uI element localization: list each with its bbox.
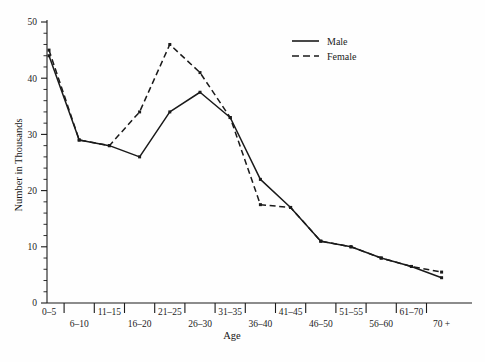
x-axis: 0–56–1011–1516–2021–2526–3031–3536–4041–… bbox=[42, 303, 472, 329]
x-tick-label: 31–35 bbox=[218, 307, 242, 317]
data-point-marker bbox=[259, 178, 262, 181]
legend-label-male: Male bbox=[327, 36, 348, 47]
x-axis-title: Age bbox=[223, 330, 241, 341]
data-point-marker bbox=[319, 240, 322, 243]
x-tick-label: 6–10 bbox=[70, 319, 89, 329]
line-chart-canvas: 01020304050 0–56–1011–1516–2021–2526–303… bbox=[0, 0, 485, 362]
chart-figure: 01020304050 0–56–1011–1516–2021–2526–303… bbox=[0, 0, 485, 362]
x-tick-label: 16–20 bbox=[128, 319, 152, 329]
legend-label-female: Female bbox=[327, 51, 357, 62]
x-tick-label: 70 + bbox=[433, 319, 450, 329]
data-point-marker bbox=[199, 91, 202, 94]
y-tick-label: 10 bbox=[28, 242, 38, 252]
x-tick-label: 0–5 bbox=[42, 307, 57, 317]
data-point-marker bbox=[168, 110, 171, 113]
y-tick-label: 30 bbox=[28, 130, 38, 140]
x-tick-label: 61–70 bbox=[400, 307, 424, 317]
x-tick-label: 36–40 bbox=[249, 319, 273, 329]
y-tick-label: 20 bbox=[28, 186, 38, 196]
series-line-male bbox=[49, 56, 442, 278]
series-line-female bbox=[49, 44, 442, 272]
data-point-marker bbox=[440, 271, 443, 274]
data-series-layer bbox=[48, 43, 444, 279]
x-axis-tick-labels: 0–56–1011–1516–2021–2526–3031–3536–4041–… bbox=[42, 307, 450, 329]
data-point-marker bbox=[350, 245, 353, 248]
data-point-marker bbox=[78, 139, 81, 142]
data-point-marker bbox=[199, 71, 202, 74]
x-tick-label: 56–60 bbox=[369, 319, 393, 329]
x-tick-label: 11–15 bbox=[98, 307, 122, 317]
data-point-marker bbox=[440, 276, 443, 279]
y-tick-label: 50 bbox=[28, 17, 38, 27]
y-axis-major-ticks bbox=[41, 22, 47, 303]
data-point-marker bbox=[380, 257, 383, 260]
x-tick-label: 46–50 bbox=[309, 319, 333, 329]
data-point-marker bbox=[138, 110, 141, 113]
data-point-marker bbox=[410, 265, 413, 268]
y-tick-label: 40 bbox=[28, 74, 38, 84]
data-point-marker bbox=[259, 203, 262, 206]
data-point-marker bbox=[289, 206, 292, 209]
data-point-marker bbox=[108, 144, 111, 147]
data-point-marker bbox=[229, 116, 232, 119]
x-tick-label: 51–55 bbox=[339, 307, 363, 317]
y-axis-title: Number in Thousands bbox=[13, 118, 24, 211]
y-axis-tick-labels: 01020304050 bbox=[28, 17, 38, 308]
data-point-marker bbox=[138, 155, 141, 158]
data-point-marker bbox=[48, 49, 51, 52]
x-tick-label: 21–25 bbox=[158, 307, 182, 317]
data-point-marker bbox=[168, 43, 171, 46]
x-tick-label: 41–45 bbox=[279, 307, 303, 317]
y-tick-label: 0 bbox=[32, 298, 37, 308]
y-axis: 01020304050 bbox=[28, 17, 48, 308]
x-tick-label: 26–30 bbox=[188, 319, 212, 329]
legend: Male Female bbox=[292, 36, 357, 62]
